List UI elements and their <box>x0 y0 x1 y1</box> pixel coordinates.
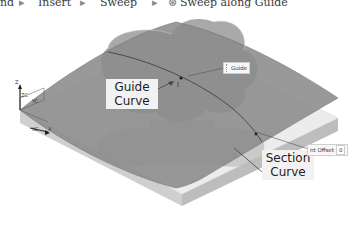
guide-curve-callout-line2: Curve <box>109 94 155 108</box>
axis-label-x: X <box>48 126 51 132</box>
section-curve-callout-line2: Curve <box>265 165 311 179</box>
drag-handle[interactable] <box>226 64 229 72</box>
axis-label-zc: ZC <box>21 92 28 98</box>
offset-value-field[interactable]: 0 <box>336 145 346 155</box>
offset-dynamic-input: nt Offset0 <box>307 144 348 156</box>
section-curve-callout-line1: Section <box>265 151 311 165</box>
offset-input-label: nt Offset <box>310 147 334 153</box>
guide-dynamic-input[interactable]: Guide <box>223 62 250 74</box>
guide-point-marker[interactable] <box>179 76 182 79</box>
axis-label-z: Z <box>15 79 18 85</box>
guide-curve-callout-line1: Guide <box>109 80 155 94</box>
guide-input-label: Guide <box>231 65 247 71</box>
axis-label-xc: XC <box>32 126 39 132</box>
section-point-marker[interactable] <box>255 133 258 136</box>
axis-label-yc: YC <box>32 98 38 104</box>
guide-curve-callout: Guide Curve <box>106 79 158 109</box>
